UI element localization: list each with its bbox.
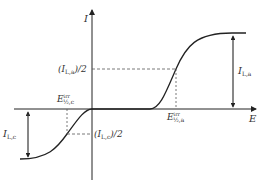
anodic-limiting-current-label: IL,a — [238, 66, 251, 77]
cathodic-limiting-current-label: IL,c — [3, 129, 16, 140]
y-axis-label: I — [84, 14, 88, 24]
anodic-half-wave-potential-label: Eirr½,a — [167, 112, 184, 123]
current-potential-diagram — [0, 0, 269, 184]
anodic-half-current-label: (IL,a)/2 — [58, 65, 87, 75]
cathodic-wave-curve — [20, 109, 92, 159]
anodic-wave-curve — [92, 33, 246, 109]
x-axis-label: E — [249, 114, 256, 124]
cathodic-half-wave-potential-label: Eirr½,c — [57, 94, 74, 105]
cathodic-half-current-label: (IL,c)/2 — [94, 130, 123, 140]
